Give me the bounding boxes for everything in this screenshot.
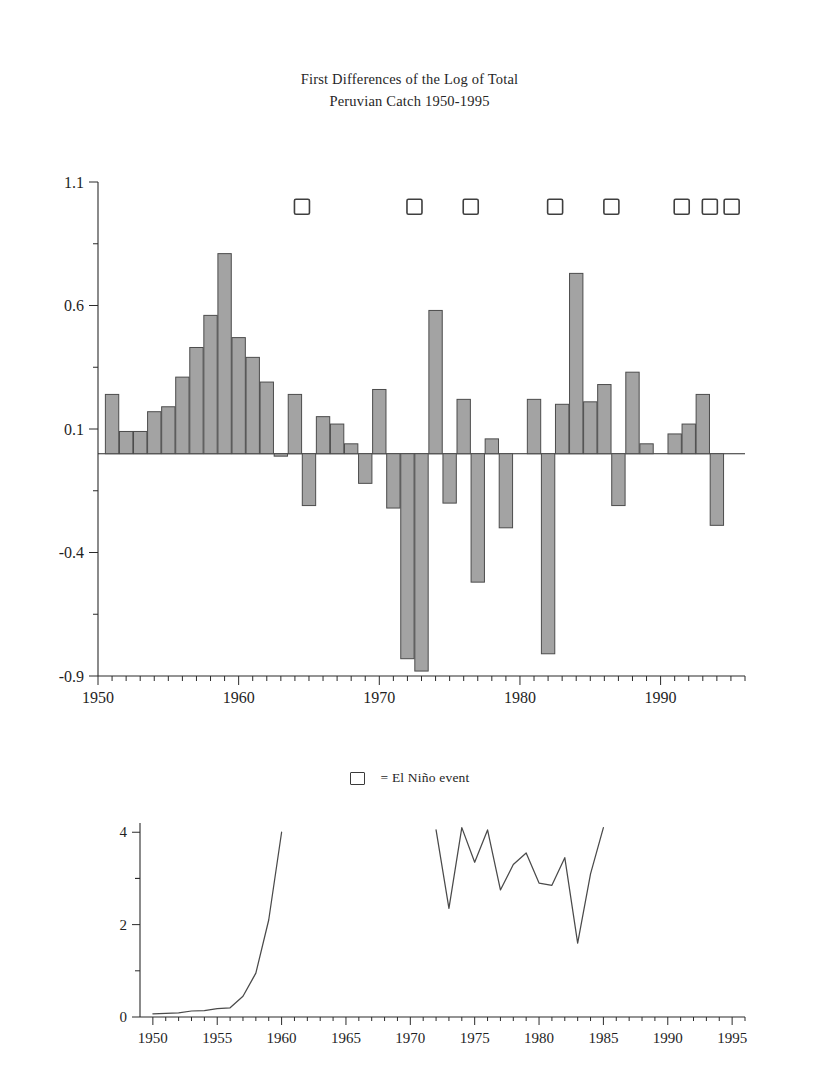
bar	[105, 394, 118, 453]
el-nino-square-icon	[407, 199, 422, 214]
x-tick-label: 1980	[504, 689, 536, 706]
x-tick-label-lower: 1980	[524, 1030, 554, 1046]
bar	[696, 394, 709, 453]
legend-label: = El Niño event	[381, 770, 470, 786]
bar	[429, 310, 442, 453]
bar	[119, 431, 132, 453]
bar	[274, 454, 287, 456]
figure-root: First Differences of the Log of Total Pe…	[0, 0, 819, 1080]
chart-legend: = El Niño event	[0, 770, 819, 789]
bar	[190, 347, 203, 453]
bar	[570, 273, 583, 453]
bar	[260, 382, 273, 454]
bar	[302, 454, 315, 506]
y-tick-label: 0.6	[64, 297, 84, 314]
el-nino-square-icon	[604, 199, 619, 214]
x-tick-label: 1990	[645, 689, 677, 706]
bar	[359, 454, 372, 484]
bar	[626, 372, 639, 454]
y-tick-label-lower: 4	[120, 824, 128, 840]
y-tick-label: -0.9	[59, 668, 84, 685]
el-nino-square-icon	[724, 199, 739, 214]
bar	[176, 377, 189, 454]
bar	[527, 399, 540, 453]
bar	[682, 424, 695, 454]
bar	[246, 357, 259, 453]
y-tick-label: 0.1	[64, 421, 84, 438]
lower-plot-group: 0241950195519601965197019751980198519901…	[120, 823, 748, 1046]
bar	[598, 385, 611, 454]
bar	[232, 338, 245, 454]
bar	[541, 454, 554, 654]
y-tick-label-lower: 0	[120, 1009, 128, 1025]
x-tick-label-lower: 1995	[717, 1030, 747, 1046]
bar	[344, 444, 357, 454]
bar	[373, 389, 386, 453]
x-tick-label-lower: 1955	[202, 1030, 232, 1046]
bar	[415, 454, 428, 671]
bar	[148, 412, 161, 454]
bar	[584, 402, 597, 454]
line-series-group	[153, 828, 604, 1014]
bar	[162, 407, 175, 454]
x-tick-label-lower: 1990	[653, 1030, 683, 1046]
x-tick-label-lower: 1975	[460, 1030, 490, 1046]
line-series-segment-early	[153, 832, 282, 1014]
bar	[640, 444, 653, 454]
bar	[387, 454, 400, 508]
line-series-segment-late	[436, 828, 603, 943]
bar	[471, 454, 484, 582]
bar	[499, 454, 512, 528]
bar	[316, 417, 329, 454]
x-tick-label-lower: 1985	[588, 1030, 618, 1046]
bar	[204, 315, 217, 453]
main-bar-chart-panel: 1.10.60.1-0.4-0.919501960197019801990	[0, 0, 819, 760]
bar	[134, 431, 147, 453]
lower-line-chart-panel: 0241950195519601965197019751980198519901…	[0, 805, 819, 1080]
bar	[401, 454, 414, 659]
bar	[443, 454, 456, 503]
el-nino-square-icon	[548, 199, 563, 214]
el-nino-square-icon	[350, 772, 365, 785]
bar-series	[105, 254, 723, 671]
el-nino-square-icon	[702, 199, 717, 214]
x-tick-label-lower: 1965	[331, 1030, 361, 1046]
main-bar-chart-svg: 1.10.60.1-0.4-0.919501960197019801990	[0, 0, 819, 760]
lower-line-chart-svg: 0241950195519601965197019751980198519901…	[0, 805, 819, 1080]
bar	[288, 394, 301, 453]
el-nino-square-icon	[674, 199, 689, 214]
y-tick-label: -0.4	[59, 544, 84, 561]
x-tick-label: 1970	[363, 689, 395, 706]
x-tick-label-lower: 1970	[395, 1030, 425, 1046]
bar	[668, 434, 681, 454]
x-tick-label: 1950	[82, 689, 114, 706]
el-nino-square-icon	[463, 199, 478, 214]
bar	[710, 454, 723, 526]
x-tick-label: 1960	[223, 689, 255, 706]
y-tick-label-lower: 2	[120, 917, 128, 933]
main-plot-group: 1.10.60.1-0.4-0.919501960197019801990	[59, 174, 745, 707]
y-tick-label: 1.1	[64, 174, 84, 191]
bar	[612, 454, 625, 506]
bar	[457, 399, 470, 453]
bar	[555, 404, 568, 453]
bar	[218, 254, 231, 454]
bar	[330, 424, 343, 454]
el-nino-square-icon	[294, 199, 309, 214]
bar	[485, 439, 498, 454]
el-nino-marker-group	[294, 199, 739, 214]
x-tick-label-lower: 1950	[138, 1030, 168, 1046]
x-tick-label-lower: 1960	[267, 1030, 297, 1046]
